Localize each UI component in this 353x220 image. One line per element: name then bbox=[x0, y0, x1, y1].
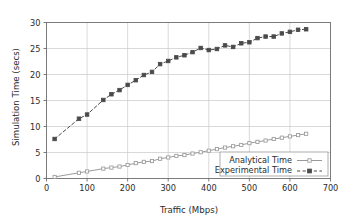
x-tick-label: 100 bbox=[79, 183, 95, 193]
data-point-marker bbox=[183, 154, 186, 157]
data-point-marker bbox=[304, 28, 308, 32]
data-point-marker bbox=[232, 145, 235, 148]
x-tick-label: 200 bbox=[120, 183, 136, 193]
data-point-marker bbox=[183, 54, 187, 58]
x-axis-title: Traffic (Mbps) bbox=[159, 205, 218, 215]
data-point-marker bbox=[272, 137, 275, 140]
y-tick-label: 10 bbox=[30, 122, 40, 132]
data-point-marker bbox=[77, 117, 81, 121]
x-tick-label: 0 bbox=[44, 183, 49, 193]
data-point-marker bbox=[142, 160, 145, 163]
data-point-marker bbox=[272, 35, 276, 39]
data-point-marker bbox=[288, 135, 291, 138]
data-point-marker bbox=[223, 44, 227, 48]
data-point-marker bbox=[175, 154, 178, 157]
chart-background bbox=[0, 0, 353, 220]
legend-label-experimental-time: Experimental Time bbox=[215, 165, 292, 175]
data-point-marker bbox=[207, 48, 211, 52]
data-point-marker bbox=[215, 47, 219, 51]
data-point-marker bbox=[102, 98, 106, 102]
data-point-marker bbox=[256, 140, 259, 143]
y-tick-label: 25 bbox=[30, 44, 40, 54]
data-point-marker bbox=[166, 59, 170, 63]
data-point-marker bbox=[150, 159, 153, 162]
legend-marker bbox=[308, 159, 311, 162]
data-point-marker bbox=[102, 167, 105, 170]
data-point-marker bbox=[118, 165, 121, 168]
data-point-marker bbox=[158, 62, 162, 66]
data-point-marker bbox=[280, 136, 283, 139]
data-point-marker bbox=[207, 149, 210, 152]
data-point-marker bbox=[305, 132, 308, 135]
y-axis-title: Simulation Time (secs) bbox=[11, 48, 21, 146]
data-point-marker bbox=[142, 73, 146, 77]
data-point-marker bbox=[191, 50, 195, 54]
data-point-marker bbox=[134, 162, 137, 165]
data-point-marker bbox=[126, 163, 129, 166]
x-tick-label: 700 bbox=[323, 183, 339, 193]
x-tick-label: 600 bbox=[282, 183, 298, 193]
y-tick-label: 20 bbox=[30, 70, 40, 80]
data-point-marker bbox=[248, 41, 252, 45]
data-point-marker bbox=[248, 142, 251, 145]
data-point-marker bbox=[199, 151, 202, 154]
data-point-marker bbox=[150, 70, 154, 74]
data-point-marker bbox=[53, 175, 56, 178]
chart-legend: Analytical TimeExperimental Time bbox=[215, 152, 328, 176]
data-point-marker bbox=[264, 35, 268, 39]
data-point-marker bbox=[126, 83, 130, 87]
x-tick-label: 500 bbox=[242, 183, 258, 193]
data-point-marker bbox=[191, 152, 194, 155]
data-point-marker bbox=[85, 113, 89, 117]
data-point-marker bbox=[110, 93, 114, 97]
data-point-marker bbox=[110, 166, 113, 169]
data-point-marker bbox=[85, 170, 88, 173]
data-point-marker bbox=[167, 156, 170, 159]
data-point-marker bbox=[118, 88, 122, 92]
data-point-marker bbox=[296, 28, 300, 32]
y-tick-label: 15 bbox=[30, 96, 40, 106]
legend-marker bbox=[308, 169, 312, 173]
data-point-marker bbox=[223, 146, 226, 149]
x-tick-label: 300 bbox=[160, 183, 176, 193]
data-point-marker bbox=[134, 78, 138, 82]
data-point-marker bbox=[53, 137, 57, 141]
data-point-marker bbox=[240, 143, 243, 146]
data-point-marker bbox=[199, 46, 203, 50]
data-point-marker bbox=[256, 36, 260, 40]
chart-figure: 0100200300400500600700 051015202530 Traf… bbox=[0, 0, 353, 220]
data-point-marker bbox=[239, 42, 243, 46]
data-point-marker bbox=[77, 171, 80, 174]
legend-label-analytical-time: Analytical Time bbox=[229, 155, 292, 165]
data-point-marker bbox=[264, 139, 267, 142]
y-tick-label: 5 bbox=[35, 148, 40, 158]
data-point-marker bbox=[231, 45, 235, 49]
data-point-marker bbox=[159, 157, 162, 160]
data-point-marker bbox=[175, 56, 179, 60]
simulation-time-line-chart: 0100200300400500600700 051015202530 Traf… bbox=[0, 0, 353, 220]
data-point-marker bbox=[296, 133, 299, 136]
data-point-marker bbox=[280, 32, 284, 35]
y-tick-label: 0 bbox=[35, 174, 40, 184]
x-tick-label: 400 bbox=[201, 183, 217, 193]
data-point-marker bbox=[215, 148, 218, 151]
y-tick-label: 30 bbox=[30, 18, 40, 28]
data-point-marker bbox=[288, 30, 292, 34]
